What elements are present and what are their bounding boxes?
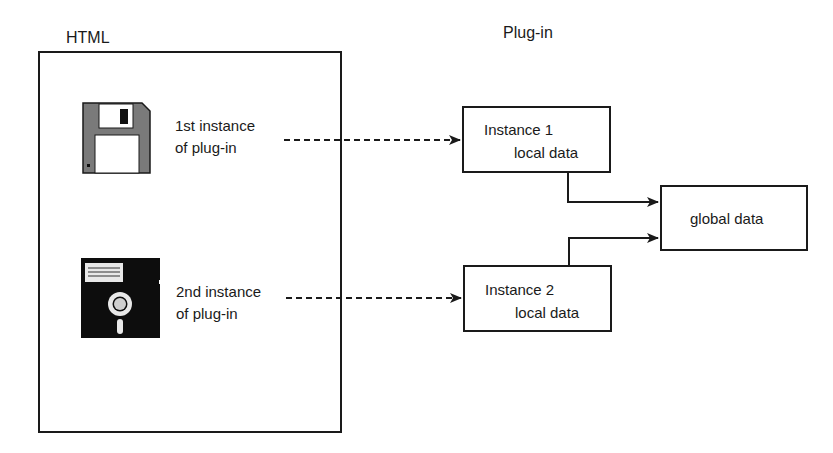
connector-lines xyxy=(0,0,833,453)
arrow-instance-2-to-global xyxy=(569,238,658,265)
arrow-instance-1-to-global xyxy=(568,173,658,202)
